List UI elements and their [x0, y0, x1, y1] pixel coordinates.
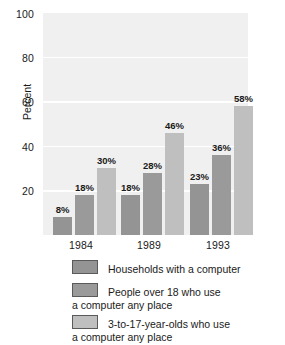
legend-swatch-households [72, 260, 98, 274]
bar-value-label: 36% [212, 142, 231, 153]
bar-value-label: 23% [190, 171, 209, 182]
bar-1989-households: 18% [121, 195, 140, 235]
bar-1993-households: 23% [190, 184, 209, 235]
legend-label-line1: Households with a computer [108, 263, 241, 275]
legend-label-adults: People over 18 who use a computer any pl… [72, 286, 285, 312]
legend-label-households: Households with a computer [108, 263, 241, 275]
bar-value-label: 18% [75, 182, 94, 193]
bar-value-label: 30% [97, 155, 116, 166]
bar-value-label: 8% [56, 204, 70, 215]
y-tick-label-100: 100 [8, 8, 34, 20]
bar-1993-adults: 36% [212, 155, 231, 235]
y-tick-label-20: 20 [8, 185, 34, 197]
legend-item-households: Households with a computer [72, 259, 285, 280]
bar-1993-youth: 58% [234, 106, 253, 235]
bar-1989-youth: 46% [165, 133, 184, 235]
x-tick-label-1984: 1984 [56, 239, 106, 251]
x-tick-label-1993: 1993 [193, 239, 243, 251]
x-tick-label-1989: 1989 [124, 239, 174, 251]
legend-item-youth: 3-to-17-year-olds who use a computer any… [72, 314, 285, 344]
bar-1984-adults: 18% [75, 195, 94, 235]
legend-label-line2: a computer any place [72, 300, 285, 312]
y-tick-label-40: 40 [8, 141, 34, 153]
plot-area: 8% 18% 30% 18% 28% 46% 23% 36% 58% [43, 13, 248, 235]
legend-item-adults: People over 18 who use a computer any pl… [72, 282, 285, 312]
gridline-60 [43, 101, 248, 103]
legend-swatch-adults [72, 283, 98, 297]
y-tick-label-80: 80 [8, 52, 34, 64]
cropped-caption-remnant [6, 330, 285, 336]
legend-label-line1: 3-to-17-year-olds who use [108, 318, 230, 330]
bar-1989-adults: 28% [143, 173, 162, 235]
bar-value-label: 18% [121, 182, 140, 193]
bar-value-label: 28% [143, 160, 162, 171]
bar-value-label: 46% [165, 120, 184, 131]
y-tick-label-60: 60 [8, 96, 34, 108]
bar-value-label: 58% [234, 93, 253, 104]
bar-1984-households: 8% [53, 217, 72, 235]
bar-1984-youth: 30% [97, 168, 116, 235]
legend-label-line1: People over 18 who use [108, 286, 221, 298]
legend-swatch-youth [72, 315, 98, 329]
gridline-80 [43, 57, 248, 59]
